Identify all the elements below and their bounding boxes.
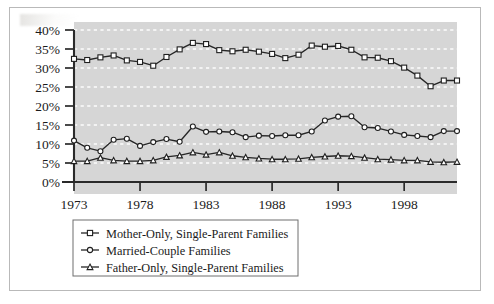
y-axis-label-20: 20% xyxy=(35,99,60,114)
data-point-marker xyxy=(375,126,380,131)
data-point-marker xyxy=(283,56,288,61)
data-point-marker xyxy=(230,49,235,54)
data-point-marker xyxy=(349,47,354,52)
data-point-marker xyxy=(87,247,92,252)
data-point-marker xyxy=(98,55,103,60)
data-point-marker xyxy=(72,138,77,143)
x-axis-label-1978: 1978 xyxy=(127,197,154,212)
data-point-marker xyxy=(362,55,367,60)
data-point-marker xyxy=(388,59,393,64)
line-chart: 0%5%10%15%20%25%30%35%40% 19731978198319… xyxy=(10,8,480,290)
data-point-marker xyxy=(415,134,420,139)
data-point-marker xyxy=(388,129,393,134)
x-axis-label-1988: 1988 xyxy=(259,197,286,212)
data-point-marker xyxy=(309,129,314,134)
data-point-marker xyxy=(111,53,116,58)
y-axis-tick-labels: 0%5%10%15%20%25%30%35%40% xyxy=(35,23,60,190)
data-point-marker xyxy=(217,129,222,134)
data-point-marker xyxy=(270,134,275,139)
data-point-marker xyxy=(270,51,275,56)
data-point-marker xyxy=(230,130,235,135)
data-point-marker xyxy=(428,84,433,89)
data-point-marker xyxy=(138,143,143,148)
data-point-marker xyxy=(124,136,129,141)
data-point-marker xyxy=(455,78,460,83)
data-point-marker xyxy=(98,149,103,154)
data-point-marker xyxy=(85,58,90,63)
data-point-marker xyxy=(177,139,182,144)
data-point-marker xyxy=(72,56,77,61)
data-point-marker xyxy=(441,129,446,134)
y-axis-label-30: 30% xyxy=(35,61,60,76)
data-point-marker xyxy=(256,49,261,54)
data-point-marker xyxy=(124,58,129,63)
data-point-marker xyxy=(296,52,301,57)
data-point-marker xyxy=(204,129,209,134)
data-point-marker xyxy=(441,78,446,83)
x-axis-label-1998: 1998 xyxy=(391,197,418,212)
data-point-marker xyxy=(151,140,156,145)
data-point-marker xyxy=(283,133,288,138)
data-point-marker xyxy=(322,118,327,123)
y-axis-label-15: 15% xyxy=(35,118,60,133)
y-axis-label-5: 5% xyxy=(42,156,60,171)
data-point-marker xyxy=(243,47,248,52)
y-axis-label-0: 0% xyxy=(42,175,60,190)
data-point-marker xyxy=(402,65,407,70)
plot-background xyxy=(74,22,457,194)
x-axis-label-1973: 1973 xyxy=(61,197,88,212)
y-axis-label-40: 40% xyxy=(35,23,60,38)
data-point-marker xyxy=(428,135,433,140)
x-axis-tick-labels: 197319781983198819931998 xyxy=(61,197,418,212)
data-point-marker xyxy=(243,135,248,140)
data-point-marker xyxy=(164,137,169,142)
legend-label-1: Married-Couple Families xyxy=(106,244,231,258)
data-point-marker xyxy=(455,129,460,134)
y-axis-label-10: 10% xyxy=(35,137,60,152)
data-point-marker xyxy=(336,114,341,119)
plot-area-background xyxy=(74,22,457,194)
x-axis-label-1983: 1983 xyxy=(193,197,220,212)
data-point-marker xyxy=(336,43,341,48)
legend-item-2[interactable]: Father-Only, Single-Parent Families xyxy=(81,261,284,275)
data-point-marker xyxy=(138,59,143,64)
data-point-marker xyxy=(296,133,301,138)
data-point-marker xyxy=(362,125,367,130)
data-point-marker xyxy=(256,133,261,138)
data-point-marker xyxy=(164,54,169,59)
chart-legend: Mother-Only, Single-Parent FamiliesMarri… xyxy=(73,220,298,276)
data-point-marker xyxy=(151,63,156,68)
y-axis-label-35: 35% xyxy=(35,42,60,57)
data-point-marker xyxy=(177,47,182,52)
legend-label-2: Father-Only, Single-Parent Families xyxy=(106,261,284,275)
y-axis-label-25: 25% xyxy=(35,80,60,95)
figure-frame: 0%5%10%15%20%25%30%35%40% 19731978198319… xyxy=(9,7,481,291)
data-point-marker xyxy=(111,137,116,142)
data-point-marker xyxy=(375,55,380,60)
data-point-marker xyxy=(309,43,314,48)
data-point-marker xyxy=(415,73,420,78)
data-point-marker xyxy=(322,44,327,49)
data-point-marker xyxy=(85,145,90,150)
data-point-marker xyxy=(87,230,92,235)
legend-item-0[interactable]: Mother-Only, Single-Parent Families xyxy=(81,227,289,241)
data-point-marker xyxy=(217,48,222,53)
data-point-marker xyxy=(204,42,209,47)
data-point-marker xyxy=(190,40,195,45)
data-point-marker xyxy=(349,114,354,119)
legend-label-0: Mother-Only, Single-Parent Families xyxy=(106,227,289,241)
data-point-marker xyxy=(402,132,407,137)
data-point-marker xyxy=(190,124,195,129)
x-axis-label-1993: 1993 xyxy=(325,197,352,212)
